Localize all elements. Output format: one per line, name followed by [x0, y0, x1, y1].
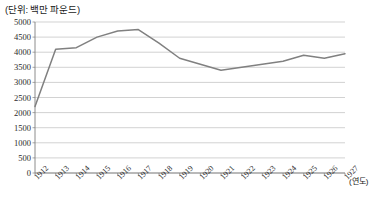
x-axis-tick-label: 1919: [177, 164, 195, 182]
y-axis-tick-label: 3000: [14, 77, 31, 87]
data-series-line: [35, 30, 345, 107]
y-axis-tick-labels: 0500100015002000250030003500400045005000: [14, 17, 35, 178]
y-axis-tick-label: 4500: [14, 32, 31, 42]
y-axis-tick-label: 500: [18, 153, 31, 163]
series-polyline: [35, 30, 345, 107]
y-axis-tick-label: 5000: [14, 17, 31, 27]
x-axis-tick-label: 1917: [136, 164, 154, 182]
x-axis-tick-label: 1913: [53, 164, 71, 182]
y-axis-tick-label: 1000: [14, 138, 31, 148]
x-axis-tick-label: 1914: [74, 164, 92, 182]
y-axis-tick-label: 2000: [14, 108, 31, 118]
y-axis-tick-label: 1500: [14, 123, 31, 133]
x-axis-tick-label: 1916: [115, 164, 133, 182]
x-axis-tick-label: 1926: [322, 164, 340, 182]
x-axis-tick-label: 1915: [95, 164, 113, 182]
y-axis-tick-label: 3500: [14, 62, 31, 72]
x-axis-tick-label: 1923: [260, 164, 278, 182]
y-axis-tick-label: 0: [27, 168, 31, 178]
x-axis-tick-label: 1921: [219, 164, 237, 182]
y-axis-tick-label: 2500: [14, 93, 31, 103]
x-axis-tick-label: 1918: [157, 164, 175, 182]
line-chart-plot: 0500100015002000250030003500400045005000…: [0, 0, 370, 202]
x-axis-tick-label: 1922: [239, 164, 257, 182]
x-axis-title: (연도): [349, 177, 369, 186]
x-axis-tick-label: 1924: [281, 164, 299, 182]
y-axis-tick-label: 4000: [14, 47, 31, 57]
x-axis-tick-label: 1925: [301, 164, 319, 182]
chart-container: (단위: 백만 파운드) 050010001500200025003000350…: [0, 0, 370, 202]
x-axis-tick-label: 1920: [198, 164, 216, 182]
